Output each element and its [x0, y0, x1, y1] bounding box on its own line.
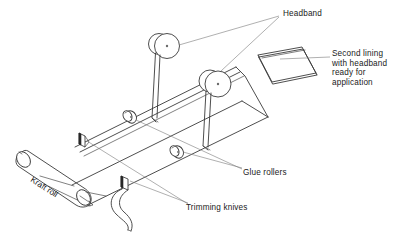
trim-waste-strip-end [128, 230, 131, 231]
label-second-lining: Second lining with headband ready for ap… [332, 49, 387, 87]
second-lining-panel [258, 47, 317, 84]
glue-roller-1-hub [130, 116, 132, 118]
web-far-corner [236, 67, 268, 117]
glue-roller-2-hub [177, 151, 179, 153]
kraft-roll [14, 149, 106, 208]
headband-spool-2 [199, 70, 231, 150]
kraft-roll-label-group: Kraft roll [29, 175, 60, 199]
headband-strip-2-inner [208, 93, 211, 147]
glue-roller-2 [168, 144, 185, 160]
kraft-roll-end-right [74, 187, 94, 208]
trimming-knife-1-edge [79, 133, 81, 145]
headband-spool-1-hub [166, 45, 168, 47]
headband-spool-1 [149, 34, 180, 123]
headband-strip-1-inner [157, 55, 160, 118]
leader-trim-knife2 [130, 181, 188, 203]
web-edge-near [88, 117, 268, 205]
label-trimming-knives: Trimming knives [186, 203, 248, 213]
headband-strip-1-outer [152, 53, 156, 122]
second-lining-edge-right [316, 73, 317, 75]
web-far-corner-inner [242, 101, 268, 117]
leader-lines [87, 16, 330, 204]
label-glue-rollers: Glue rollers [243, 168, 287, 178]
headband-spool-2-hub [217, 83, 219, 85]
leader-headband-spool1 [179, 16, 279, 45]
trimming-knife-1 [79, 133, 89, 147]
trimming-knife-2 [111, 176, 132, 231]
diagram-root: .ln{fill:none;stroke:#3a3a3a;stroke-widt… [0, 0, 400, 238]
trim-waste-strip-inner [119, 190, 132, 231]
trimming-knife-2-edge [121, 176, 123, 188]
label-headband: Headband [283, 9, 322, 19]
trim-waste-strip-outer [111, 189, 128, 230]
kraft-roll-label: Kraft roll [29, 175, 60, 199]
leader-glue-roller2 [183, 152, 242, 168]
headband-strip-2-outer [203, 91, 208, 150]
